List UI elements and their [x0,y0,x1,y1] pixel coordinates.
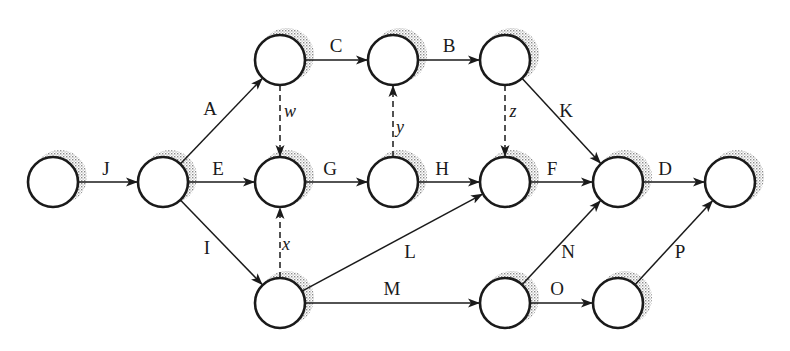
edge-label-A: A [203,98,217,119]
event-node-n1 [28,157,78,207]
edge-label-N: N [561,241,575,262]
edge-label-B: B [443,35,456,56]
event-node-n11 [255,278,305,328]
event-node-n6 [255,157,305,207]
edge-label-O: O [550,278,564,299]
edge-P [635,201,712,285]
edge-label-y: y [394,117,404,137]
event-node-n10 [705,157,755,207]
edge-label-w: w [284,101,296,121]
edge-label-H: H [435,158,449,179]
edge-label-z: z [508,101,516,121]
edge-label-C: C [330,35,343,56]
network-diagram: JAEICBwyzKGHFDxLMNOP [0,0,790,351]
edge-label-F: F [547,158,558,179]
edge-label-D: D [658,158,672,179]
event-node-n3 [255,35,305,85]
edge-label-x: x [281,234,290,254]
edge-label-K: K [559,100,573,121]
edge-label-J: J [102,158,109,179]
edge-label-I: I [204,237,210,258]
event-node-n13 [593,278,643,328]
event-node-n8 [480,157,530,207]
edge-label-E: E [212,158,224,179]
edge-L [302,194,482,291]
event-node-n7 [368,157,418,207]
edge-label-L: L [404,241,416,262]
event-node-n5 [480,35,530,85]
edge-label-P: P [675,241,686,262]
event-node-n12 [480,278,530,328]
event-node-n2 [138,157,188,207]
edge-label-M: M [384,278,401,299]
event-node-n4 [368,35,418,85]
edge-I [180,200,262,284]
event-node-n9 [593,157,643,207]
edge-label-G: G [323,158,337,179]
edge-A [180,79,262,164]
